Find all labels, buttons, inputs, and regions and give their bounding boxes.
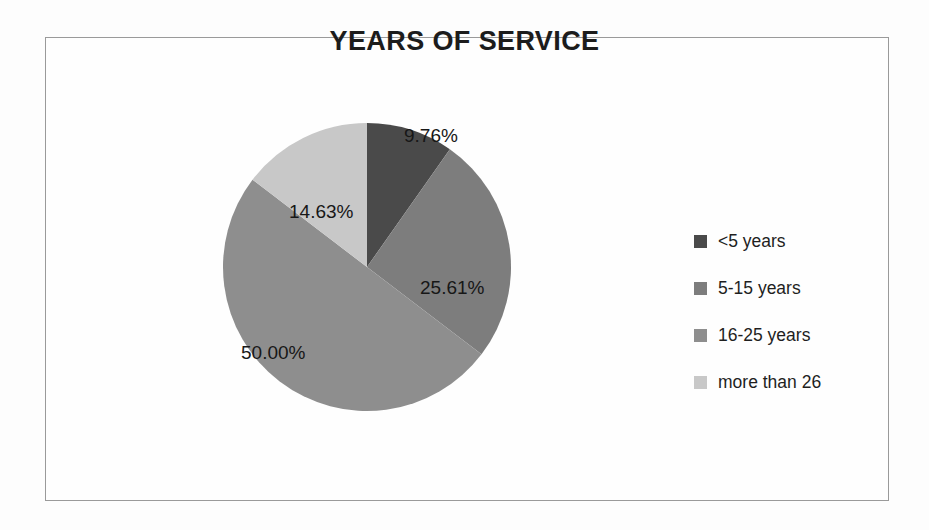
legend-item-5-15-years[interactable]: 5-15 years	[694, 265, 874, 312]
legend-item-more-than-26[interactable]: more than 26	[694, 359, 874, 406]
legend-swatch-icon	[694, 235, 707, 248]
chart-title: YEARS OF SERVICE	[0, 26, 929, 57]
legend-item-label: <5 years	[718, 231, 786, 252]
legend-item-label: 5-15 years	[718, 278, 801, 299]
pie-slice-group	[223, 123, 511, 411]
legend-item-lt5-years[interactable]: <5 years	[694, 218, 874, 265]
legend-item-label: more than 26	[718, 372, 821, 393]
pie-label-lt5-years: 9.76%	[404, 125, 458, 147]
pie-label-5-15-years: 25.61%	[420, 277, 484, 299]
chart-page: YEARS OF SERVICE 9.76% 25.61% 50.00% 14.…	[0, 0, 929, 530]
legend-item-label: 16-25 years	[718, 325, 810, 346]
legend-swatch-icon	[694, 282, 707, 295]
legend-swatch-icon	[694, 376, 707, 389]
pie-svg	[222, 122, 512, 412]
pie-chart	[222, 122, 512, 412]
chart-legend: <5 years 5-15 years 16-25 years more tha…	[694, 218, 874, 406]
legend-item-16-25-years[interactable]: 16-25 years	[694, 312, 874, 359]
legend-swatch-icon	[694, 329, 707, 342]
pie-label-16-25-years: 50.00%	[241, 342, 305, 364]
pie-label-more-than-26: 14.63%	[289, 201, 353, 223]
